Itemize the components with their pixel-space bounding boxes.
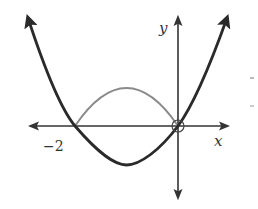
graph-figure: y x −2 bbox=[0, 0, 258, 209]
x-axis-label: x bbox=[214, 132, 223, 150]
tick-label-neg2: −2 bbox=[43, 138, 64, 154]
reflected-arc-curve bbox=[75, 88, 178, 126]
y-axis-label: y bbox=[158, 19, 168, 37]
